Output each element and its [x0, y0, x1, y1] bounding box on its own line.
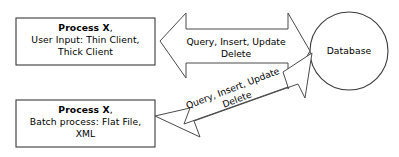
process-x-batch-label: Process X, Batch process: Flat File, XML	[16, 104, 155, 141]
process-x-user-input-title-line: Process X,	[16, 22, 155, 34]
database-label: Database	[310, 45, 388, 57]
process-x-user-input-title: Process X	[58, 22, 109, 33]
process-x-batch-desc-2: XML	[16, 128, 155, 140]
diagram-canvas: Process X, User Input: Thin Client, Thic…	[0, 0, 399, 157]
process-x-user-input-label: Process X, User Input: Thin Client, Thic…	[16, 22, 155, 59]
process-x-batch-title-suffix: ,	[110, 104, 113, 115]
process-x-batch-title: Process X	[58, 104, 109, 115]
process-x-user-input-desc-2: Thick Client	[16, 46, 155, 58]
process-x-user-input-title-suffix: ,	[110, 22, 113, 33]
process-x-user-input-desc-1: User Input: Thin Client,	[16, 34, 155, 46]
process-x-batch-desc-1: Batch process: Flat File,	[16, 116, 155, 128]
edge-user-input-label-line-1: Query, Insert, Update	[172, 36, 300, 48]
process-x-batch-title-line: Process X,	[16, 104, 155, 116]
edge-user-input-to-database-label: Query, Insert, Update Delete	[172, 36, 300, 61]
edge-user-input-label-line-2: Delete	[172, 48, 300, 60]
